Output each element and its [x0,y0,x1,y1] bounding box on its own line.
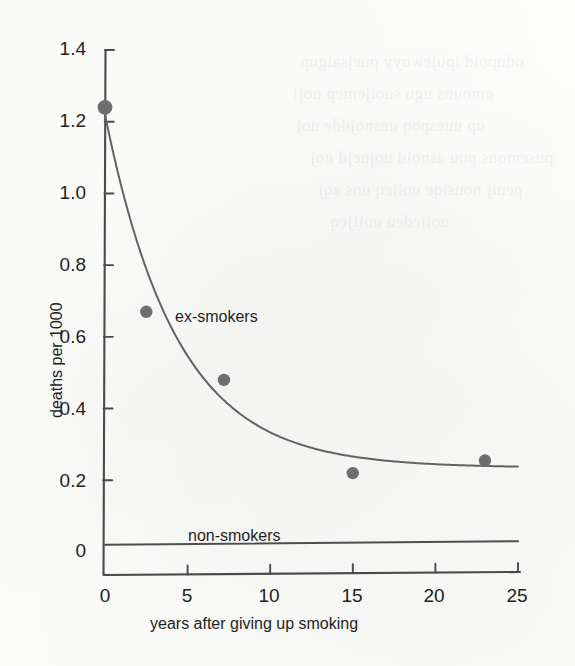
y-tick-label-0-8: 0.8 [18,254,86,276]
non-smokers-label: non-smokers [188,527,280,545]
y-tick-label-1-2: 1.2 [18,110,86,132]
x-tick-label-20: 20 [404,585,464,607]
y-tick-label-1-4: 1.4 [18,38,86,60]
x-tick-label-25: 25 [487,585,547,607]
data-point [479,454,491,466]
data-point [98,100,113,115]
x-tick-label-5: 5 [157,585,217,607]
x-tick-label-15: 15 [322,585,382,607]
chart-figure: 1.4 1.2 1.0 0.8 0.6 0.4 0.2 0 0 5 10 15 … [0,0,575,666]
x-tick-label-0: 0 [75,585,135,607]
ex-smokers-data-points [98,100,492,479]
axis-lines [104,50,521,575]
non-smokers-line [105,541,518,545]
plot-canvas [0,0,575,666]
y-tick-label-0-2: 0.2 [18,470,86,492]
data-point [140,306,152,318]
y-tick-label-1-0: 1.0 [18,182,86,204]
ex-smokers-fit-curve [105,115,518,467]
y-tick-label-0: 0 [18,540,86,562]
ex-smokers-label: ex-smokers [175,308,258,326]
data-point [218,374,230,386]
y-axis-line [104,50,106,575]
data-point [347,467,359,479]
y-axis-title: deaths per 1000 [48,302,66,418]
x-axis-title: years after giving up smoking [150,615,358,633]
x-tick-label-10: 10 [239,585,299,607]
x-axis-line [104,572,520,575]
